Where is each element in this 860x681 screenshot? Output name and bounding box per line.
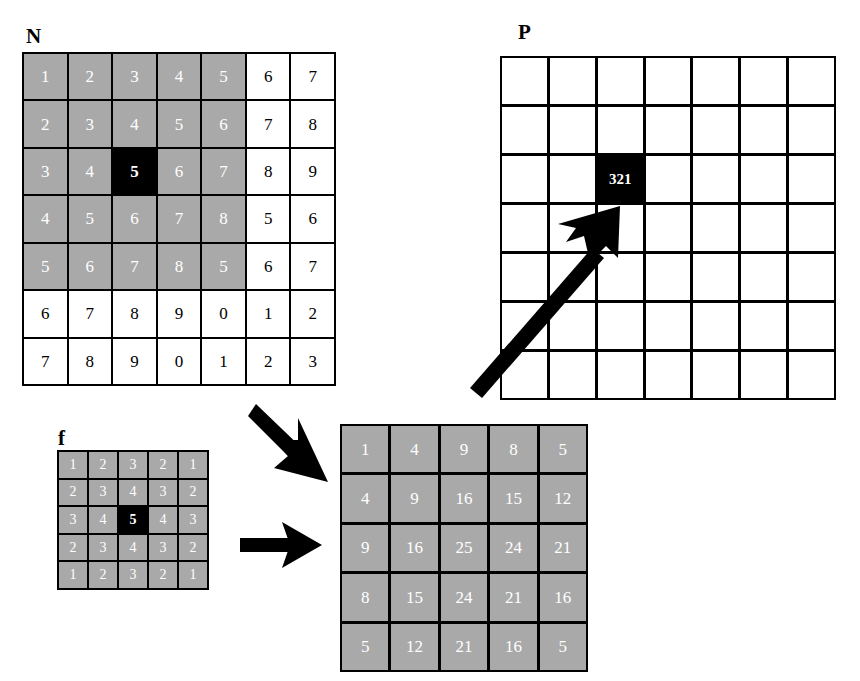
n-matrix-cell: 5	[202, 244, 245, 289]
p-matrix-cell	[550, 107, 595, 153]
n-matrix-cell: 7	[24, 339, 67, 384]
n-matrix-cell: 2	[247, 339, 290, 384]
kernel-matrix-cell: 1	[59, 452, 87, 478]
result-matrix-cell: 1	[342, 426, 388, 472]
kernel-matrix-cell: 3	[149, 535, 177, 561]
n-matrix-cell: 8	[113, 291, 156, 336]
result-matrix-cell: 9	[391, 475, 437, 521]
kernel-matrix-cell: 4	[89, 507, 117, 533]
kernel-matrix-cell: 4	[119, 480, 147, 506]
kernel-matrix-cell: 1	[179, 452, 207, 478]
result-matrix-cell: 24	[441, 574, 487, 620]
p-matrix-cell	[789, 303, 834, 349]
kernel-matrix-cell: 2	[179, 535, 207, 561]
n-matrix-cell: 7	[202, 149, 245, 194]
p-matrix-cell	[741, 156, 786, 202]
p-matrix-cell	[741, 303, 786, 349]
kernel-matrix-cell: 1	[179, 562, 207, 588]
result-matrix-cell: 16	[441, 475, 487, 521]
p-matrix-cell	[550, 58, 595, 104]
p-matrix-cell	[693, 303, 738, 349]
p-matrix-cell	[741, 58, 786, 104]
n-matrix-cell: 6	[69, 244, 112, 289]
kernel-matrix-cell: 4	[119, 535, 147, 561]
n-matrix-cell: 7	[113, 244, 156, 289]
n-matrix-cell: 2	[24, 101, 67, 146]
n-matrix-cell: 0	[202, 291, 245, 336]
n-matrix-cell: 6	[158, 149, 201, 194]
result-matrix-cell: 12	[540, 475, 586, 521]
kernel-matrix-cell: 3	[119, 562, 147, 588]
n-matrix-cell: 7	[69, 291, 112, 336]
n-matrix-cell: 6	[24, 291, 67, 336]
p-matrix-cell	[789, 352, 834, 398]
kernel-matrix-cell: 2	[59, 535, 87, 561]
n-matrix-cell: 0	[158, 339, 201, 384]
kernel-matrix-cell: 3	[179, 507, 207, 533]
p-matrix-cell	[741, 254, 786, 300]
n-matrix-cell: 3	[291, 339, 334, 384]
p-matrix-cell	[646, 156, 691, 202]
p-matrix-cell	[789, 107, 834, 153]
result-matrix-cell: 16	[540, 574, 586, 620]
n-matrix-cell: 8	[69, 339, 112, 384]
result-matrix-cell: 16	[490, 624, 536, 670]
n-matrix-cell: 6	[291, 196, 334, 241]
p-matrix-cell	[502, 58, 547, 104]
result-matrix-cell: 15	[490, 475, 536, 521]
result-matrix-cell: 15	[391, 574, 437, 620]
n-matrix-cell: 9	[158, 291, 201, 336]
n-matrix-cell: 4	[158, 54, 201, 99]
result-matrix-cell: 16	[391, 525, 437, 571]
n-matrix-cell: 6	[113, 196, 156, 241]
n-matrix-cell: 8	[291, 101, 334, 146]
kernel-matrix-cell: 1	[59, 562, 87, 588]
p-matrix-cell	[502, 107, 547, 153]
n-matrix-cell: 3	[69, 101, 112, 146]
n-matrix-cell: 9	[113, 339, 156, 384]
p-matrix-cell	[741, 205, 786, 251]
p-matrix-cell	[598, 107, 643, 153]
p-matrix-cell	[789, 156, 834, 202]
p-matrix-cell	[598, 58, 643, 104]
result-matrix-cell: 9	[342, 525, 388, 571]
n-matrix-cell: 5	[24, 244, 67, 289]
n-matrix-cell: 7	[158, 196, 201, 241]
kernel-matrix-cell: 2	[89, 452, 117, 478]
kernel-matrix-cell: 2	[149, 452, 177, 478]
result-matrix-cell: 5	[342, 624, 388, 670]
p-matrix-cell	[789, 205, 834, 251]
n-matrix-cell: 7	[291, 244, 334, 289]
p-matrix-cell	[741, 352, 786, 398]
kernel-matrix-cell: 2	[179, 480, 207, 506]
n-matrix-cell: 5	[202, 54, 245, 99]
result-matrix-cell: 9	[441, 426, 487, 472]
kernel-matrix-cell: 4	[149, 507, 177, 533]
n-matrix-cell: 3	[24, 149, 67, 194]
n-matrix-label: N	[26, 26, 41, 47]
result-matrix-cell: 25	[441, 525, 487, 571]
p-matrix-cell	[789, 58, 834, 104]
result-matrix-cell: 24	[490, 525, 536, 571]
result-matrix-cell: 5	[540, 624, 586, 670]
result-matrix-grid: 149854916151291625242181524211651221165	[340, 424, 588, 672]
n-matrix-grid: 1234567234567834567894567856567856767890…	[22, 52, 336, 386]
result-matrix-cell: 4	[391, 426, 437, 472]
p-matrix-cell	[693, 205, 738, 251]
n-matrix-cell: 8	[158, 244, 201, 289]
result-matrix-cell: 4	[342, 475, 388, 521]
n-matrix-cell: 7	[291, 54, 334, 99]
n-matrix-cell: 7	[247, 101, 290, 146]
kernel-matrix-cell: 3	[119, 452, 147, 478]
kernel-matrix-cell: 3	[149, 480, 177, 506]
n-matrix-cell: 5	[69, 196, 112, 241]
n-matrix-cell: 3	[113, 54, 156, 99]
n-matrix-cell: 5	[113, 149, 156, 194]
p-matrix-cell	[646, 107, 691, 153]
kernel-matrix-label: f	[58, 428, 65, 449]
n-matrix-cell: 2	[69, 54, 112, 99]
result-matrix-cell: 8	[490, 426, 536, 472]
p-matrix-cell	[693, 156, 738, 202]
kernel-matrix-cell: 5	[119, 507, 147, 533]
kernel-matrix-cell: 2	[149, 562, 177, 588]
